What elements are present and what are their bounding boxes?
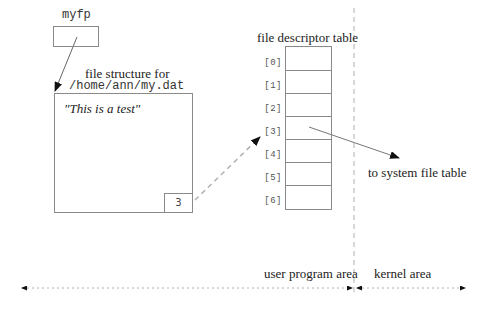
fd-value-box: 3 [164,193,193,213]
fd-index-3: [3] [258,127,282,137]
fd-table [285,46,332,210]
system-file-table-label: to system file table [368,165,467,181]
fd-table-row-divider [286,185,331,186]
user-area-label: user program area [264,266,358,282]
fd-table-row-divider [286,139,331,140]
fd-link-arrow [195,137,260,200]
file-content-text: "This is a test" [64,101,140,117]
fd-index-1: [1] [258,81,282,91]
fd-index-0: [0] [258,58,282,68]
fd-index-4: [4] [258,150,282,160]
fd-index-5: [5] [258,173,282,183]
pointer-label: myfp [62,8,91,22]
fd-index-2: [2] [258,104,282,114]
fd-value: 3 [165,197,192,208]
file-structure-path: /home/ann/my.dat [69,79,184,93]
file-structure-box: "This is a test" 3 [54,93,193,213]
kernel-area-label: kernel area [374,266,431,282]
fd-table-title: file descriptor table [257,30,358,46]
fd-index-6: [6] [258,196,282,206]
fd-table-row-divider [286,93,331,94]
fd-table-row-divider [286,162,331,163]
fd-table-row-divider [286,70,331,71]
pointer-box [53,26,99,47]
fd-table-row-divider [286,116,331,117]
